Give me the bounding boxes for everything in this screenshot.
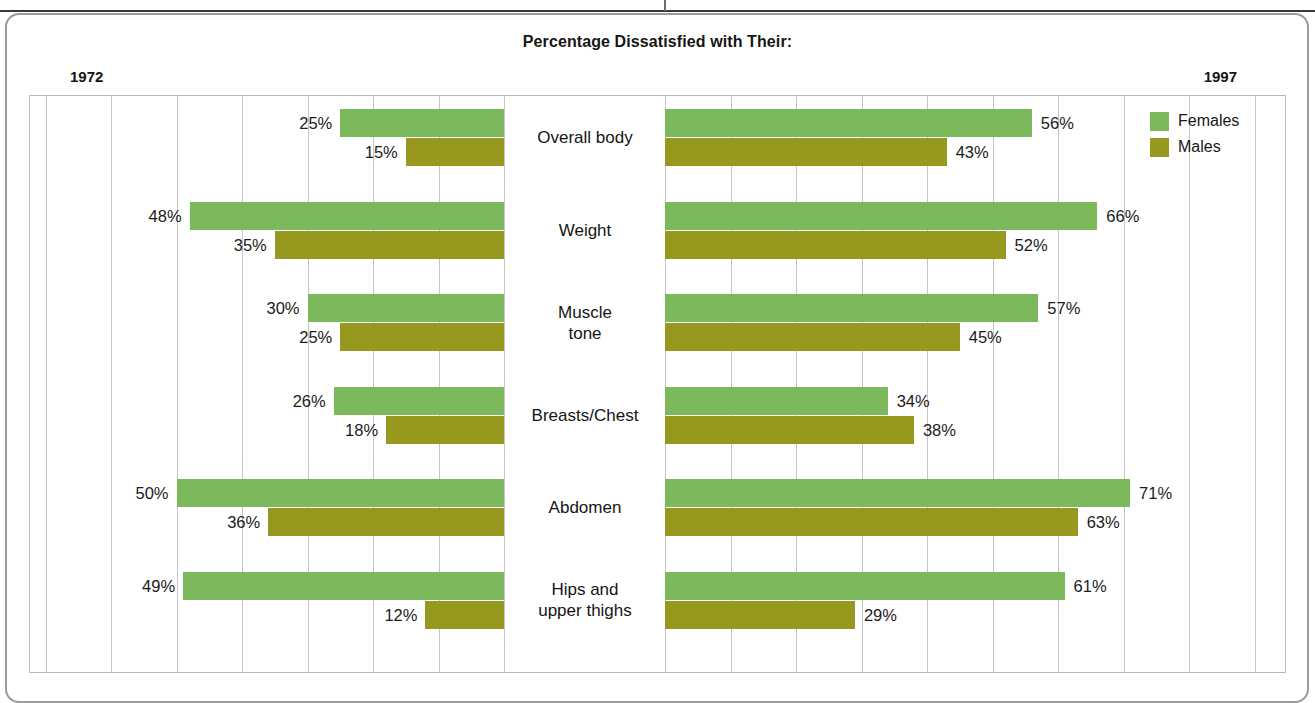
legend: Females Males xyxy=(1150,108,1239,160)
female-swatch-icon xyxy=(1150,112,1169,131)
category-label-line: Abdomen xyxy=(505,497,665,518)
category-label-line: Hips and xyxy=(505,579,665,600)
page-title: Percentage Dissatisfied with Their: xyxy=(0,33,1315,51)
category-label-line: tone xyxy=(505,323,665,344)
left-panel-year-label: 1972 xyxy=(70,68,103,85)
top-rule-divider xyxy=(0,10,1315,12)
plot-area: 25%15%56%43%48%35%66%52%30%25%57%45%26%1… xyxy=(29,95,1286,673)
category-label-5: Hips andupper thighs xyxy=(505,579,665,621)
top-tick-mark xyxy=(664,0,666,11)
category-label-line: Weight xyxy=(505,220,665,241)
category-labels-layer: Overall bodyWeightMuscletoneBreasts/Ches… xyxy=(30,96,1285,672)
category-label-line: Breasts/Chest xyxy=(505,405,665,426)
right-panel-year-label: 1997 xyxy=(1204,68,1237,85)
category-label-3: Breasts/Chest xyxy=(505,405,665,426)
category-label-line: Overall body xyxy=(505,127,665,148)
category-label-1: Weight xyxy=(505,220,665,241)
category-label-4: Abdomen xyxy=(505,497,665,518)
category-label-line: Muscle xyxy=(505,302,665,323)
legend-label-males: Males xyxy=(1178,138,1221,156)
legend-item-males[interactable]: Males xyxy=(1150,134,1239,160)
category-label-0: Overall body xyxy=(505,127,665,148)
legend-item-females[interactable]: Females xyxy=(1150,108,1239,134)
category-label-2: Muscletone xyxy=(505,302,665,344)
category-label-line: upper thighs xyxy=(505,600,665,621)
male-swatch-icon xyxy=(1150,138,1169,157)
legend-label-females: Females xyxy=(1178,112,1239,130)
